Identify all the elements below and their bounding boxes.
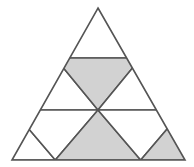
- triangle-figure-container: [0, 0, 194, 167]
- subdivided-triangle-figure: [0, 0, 194, 167]
